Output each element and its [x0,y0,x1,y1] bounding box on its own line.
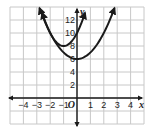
x-tick-label: −3 [32,100,42,110]
origin-label: O [68,99,75,110]
x-axis-label: x [138,99,144,110]
y-tick-label: 10 [65,28,75,38]
x-tick-label: 3 [115,100,120,110]
chart: −4−3−2−1123424681012Oxy [0,0,150,129]
x-tick-label: −2 [45,100,55,110]
y-tick-label: 4 [70,67,75,77]
x-tick-label: 1 [88,100,93,110]
x-tick-label: 2 [101,100,106,110]
x-tick-label: 4 [128,100,133,110]
x-tick-label: −4 [18,100,28,110]
y-tick-label: 2 [70,80,75,90]
y-tick-label: 12 [65,15,75,25]
